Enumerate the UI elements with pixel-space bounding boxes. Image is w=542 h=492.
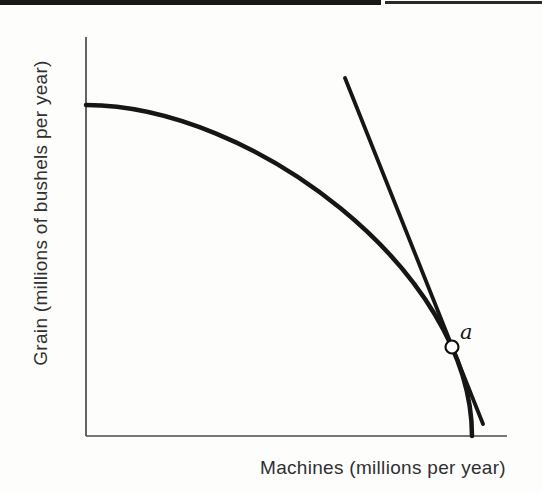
ppf-curve [86, 105, 472, 436]
x-axis-title: Machines (millions per year) [260, 457, 506, 479]
tangent-line [345, 78, 483, 424]
figure-page: Grain (millions of bushels per year) a M… [0, 0, 542, 492]
ppf-chart: a [0, 0, 542, 492]
point-a-label: a [460, 320, 473, 344]
point-a-marker [446, 341, 459, 354]
